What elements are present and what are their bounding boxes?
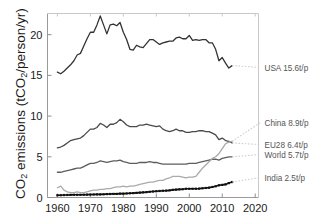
series-marker (139, 192, 141, 194)
series-marker (178, 188, 180, 190)
x-tick-label-1970: 1970 (78, 202, 102, 214)
series-marker (162, 190, 164, 192)
series-marker (132, 192, 134, 194)
series-marker (126, 192, 128, 194)
y-tick-label-20: 20 (30, 29, 42, 41)
legend-label-world: World 5.7t/p (265, 151, 309, 160)
series-marker (185, 188, 187, 190)
leader-line-eu28 (232, 143, 260, 145)
series-marker (99, 193, 101, 195)
series-marker (129, 192, 131, 194)
series-marker (198, 188, 200, 190)
series-marker (102, 193, 104, 195)
series-marker (195, 188, 197, 190)
legend-label-india: India 2.5t/p (265, 174, 306, 183)
series-marker (79, 194, 81, 196)
series-marker (168, 189, 170, 191)
series-marker (112, 193, 114, 195)
series-marker (89, 193, 91, 195)
series-marker (188, 188, 190, 190)
series-marker (149, 191, 151, 193)
series-marker (175, 189, 177, 191)
series-marker (152, 190, 154, 192)
series-marker (122, 193, 124, 195)
series-marker (73, 194, 75, 196)
axis-frame (48, 14, 259, 198)
series-marker (66, 194, 68, 196)
leader-line-world (232, 155, 260, 157)
series-line-usa (57, 16, 232, 74)
series-marker (172, 189, 174, 191)
series-marker (116, 193, 118, 195)
series-marker (109, 193, 111, 195)
series-marker (56, 194, 58, 196)
x-tick-label-2020: 2020 (243, 202, 267, 214)
series-marker (60, 194, 62, 196)
leader-line-india (232, 178, 260, 183)
series-marker (106, 193, 108, 195)
x-tick-label-1980: 1980 (111, 202, 135, 214)
series-marker (228, 182, 230, 184)
series-marker (158, 190, 160, 192)
series-marker (86, 194, 88, 196)
leader-line-usa (232, 66, 260, 68)
chart-plot: 051015201960197019801990200020102020USA … (0, 0, 318, 224)
legend-label-usa: USA 15.6t/p (265, 64, 309, 73)
series-marker (221, 184, 223, 186)
series-marker (142, 191, 144, 193)
series-marker (224, 183, 226, 185)
series-marker (96, 193, 98, 195)
series-marker (63, 194, 65, 196)
y-tick-label-5: 5 (36, 151, 42, 163)
series-marker (208, 187, 210, 189)
series-marker (165, 189, 167, 191)
series-marker (215, 185, 217, 187)
series-marker (155, 190, 157, 192)
series-marker (83, 194, 85, 196)
y-tick-label-15: 15 (30, 69, 42, 81)
series-marker (135, 192, 137, 194)
y-tick-label-0: 0 (36, 192, 42, 204)
series-line-eu28 (57, 119, 232, 148)
legend-label-eu28: EU28 6.4t/p (265, 141, 309, 150)
x-tick-label-1960: 1960 (45, 202, 69, 214)
leader-line-china (232, 123, 260, 142)
series-marker (211, 186, 213, 188)
legend-label-china: China 8.9t/p (265, 119, 310, 128)
series-marker (218, 184, 220, 186)
series-marker (69, 194, 71, 196)
axis-frame-outer (48, 14, 259, 198)
series-marker (145, 191, 147, 193)
series-marker (119, 193, 121, 195)
series-marker (93, 193, 95, 195)
chart-container: CO2 emissions (tCO2/person/yr) 051015201… (0, 0, 318, 224)
series-marker (201, 187, 203, 189)
series-marker (191, 188, 193, 190)
y-tick-label-10: 10 (30, 110, 42, 122)
x-tick-label-1990: 1990 (144, 202, 168, 214)
x-tick-label-2000: 2000 (177, 202, 201, 214)
x-tick-label-2010: 2010 (210, 202, 234, 214)
series-marker (182, 188, 184, 190)
series-marker (205, 187, 207, 189)
series-marker (76, 194, 78, 196)
